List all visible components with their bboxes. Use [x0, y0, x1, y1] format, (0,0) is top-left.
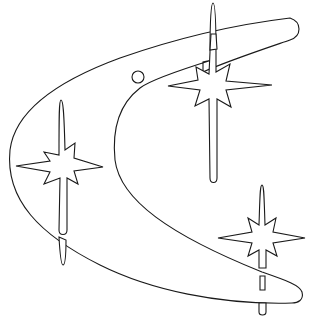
star-bottom-right-tail-icon: [259, 303, 266, 315]
small-circle-icon: [132, 71, 144, 83]
illustration-canvas: Boomerang with sparkle stars line art: [0, 0, 311, 321]
slot-top-icon: [210, 34, 217, 50]
star-left-tail-icon: [59, 237, 66, 265]
boomerang-stars-drawing: [0, 0, 311, 321]
slot-bottom-icon: [260, 276, 265, 290]
star-bottom-right-icon: [218, 185, 305, 268]
